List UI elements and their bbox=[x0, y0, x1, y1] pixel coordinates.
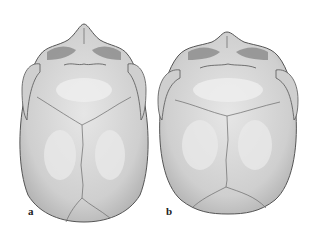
skull-illustration: a b bbox=[0, 0, 314, 235]
skull-b bbox=[158, 32, 298, 214]
panel-label-a: a bbox=[28, 205, 34, 217]
skull-a bbox=[20, 24, 148, 222]
panel-label-b: b bbox=[166, 205, 172, 217]
